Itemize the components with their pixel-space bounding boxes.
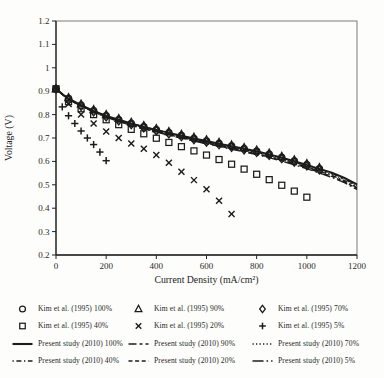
legend-label: Kim et al. (1995) 20%	[154, 322, 224, 330]
legend-label: Present study (2010) 100%	[38, 340, 123, 348]
legend-label: Kim et al. (1995) 40%	[38, 322, 108, 330]
triangle-marker-icon	[128, 304, 149, 314]
legend-item: Present study (2010) 40%	[12, 353, 128, 371]
legend-item: Present study (2010) 100%	[12, 335, 128, 353]
line-style-icon	[128, 339, 149, 349]
x-tick-label: 1000	[298, 261, 317, 271]
legend-label: Kim et al. (1995) 100%	[38, 305, 112, 313]
legend-item: Kim et al. (1995) 90%	[128, 300, 252, 318]
circle-marker-icon	[12, 304, 33, 314]
legend-item: Present study (2010) 90%	[128, 335, 252, 353]
series-markers-kim40	[53, 86, 310, 200]
legend-item: Kim et al. (1995) 5%	[252, 318, 382, 336]
chart-legend: Kim et al. (1995) 100%Kim et al. (1995) …	[12, 300, 382, 370]
x-tick-label: 0	[54, 261, 59, 271]
y-tick-label: 0.5	[38, 180, 50, 190]
line-style-icon	[252, 356, 273, 366]
x-axis-label: Current Density (mA/cm²)	[154, 274, 258, 286]
y-tick-label: 1.2	[38, 16, 49, 26]
legend-label: Present study (2010) 90%	[154, 340, 235, 348]
legend-item: Kim et al. (1995) 40%	[12, 318, 128, 336]
y-tick-label: 0.8	[38, 110, 50, 120]
line-style-icon	[252, 339, 273, 349]
legend-item: Kim et al. (1995) 70%	[252, 300, 382, 318]
y-tick-label: 0.6	[38, 156, 50, 166]
x-tick-label: 200	[99, 261, 113, 271]
legend-item: Present study (2010) 70%	[252, 335, 382, 353]
polarization-chart: 0.20.30.40.50.60.70.80.911.11.2020040060…	[0, 0, 384, 296]
legend-item: Kim et al. (1995) 20%	[128, 318, 252, 336]
y-tick-label: 1	[45, 63, 50, 73]
x-tick-label: 1200	[348, 261, 367, 271]
y-axis-label: Voltage (V)	[3, 115, 15, 161]
polarization-figure: 0.20.30.40.50.60.70.80.911.11.2020040060…	[0, 0, 384, 378]
legend-label: Present study (2010) 5%	[278, 357, 355, 365]
x-marker-icon	[128, 321, 149, 331]
x-tick-label: 400	[150, 261, 164, 271]
diamond-marker-icon	[252, 304, 273, 314]
legend-column-3: Kim et al. (1995) 70%Kim et al. (1995) 5…	[252, 300, 382, 370]
plus-marker-icon	[252, 321, 273, 331]
square-marker-icon	[12, 321, 33, 331]
legend-column-1: Kim et al. (1995) 100%Kim et al. (1995) …	[12, 300, 128, 370]
legend-label: Present study (2010) 70%	[278, 340, 359, 348]
legend-label: Kim et al. (1995) 70%	[278, 305, 348, 313]
y-tick-label: 0.2	[38, 250, 49, 260]
line-style-icon	[12, 356, 33, 366]
legend-item: Present study (2010) 20%	[128, 353, 252, 371]
legend-label: Kim et al. (1995) 5%	[278, 322, 344, 330]
y-tick-label: 0.9	[38, 86, 50, 96]
x-tick-label: 600	[200, 261, 214, 271]
line-style-icon	[128, 356, 149, 366]
series-markers-kim5	[52, 85, 109, 164]
line-style-icon	[12, 339, 33, 349]
legend-column-2: Kim et al. (1995) 90%Kim et al. (1995) 2…	[128, 300, 252, 370]
legend-item: Present study (2010) 5%	[252, 353, 382, 371]
x-tick-label: 800	[250, 261, 264, 271]
y-tick-label: 1.1	[38, 39, 49, 49]
y-tick-label: 0.7	[38, 133, 50, 143]
legend-item: Kim et al. (1995) 100%	[12, 300, 128, 318]
y-tick-label: 0.4	[38, 203, 50, 213]
y-tick-label: 0.3	[38, 227, 50, 237]
legend-label: Kim et al. (1995) 90%	[154, 305, 224, 313]
legend-label: Present study (2010) 40%	[38, 357, 119, 365]
legend-label: Present study (2010) 20%	[154, 357, 235, 365]
